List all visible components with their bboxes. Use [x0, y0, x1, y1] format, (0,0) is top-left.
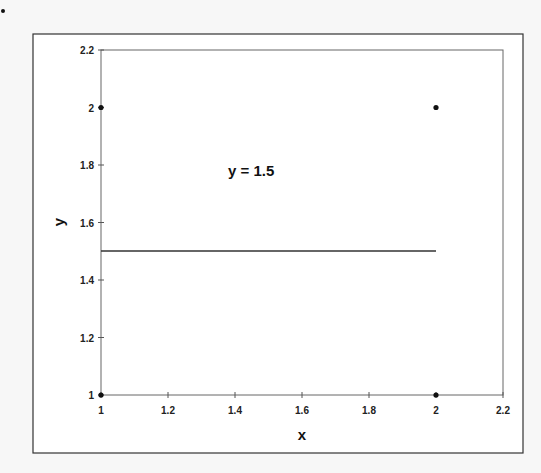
x-axis-title: x: [298, 426, 307, 443]
y-tick-label: 1.6: [80, 218, 94, 229]
data-point: [98, 392, 103, 397]
data-point: [433, 392, 438, 397]
y-tick-label: 1.8: [80, 160, 94, 171]
data-point: [98, 105, 103, 110]
y-tick-label: 2.2: [80, 45, 94, 56]
x-tick-label: 2: [433, 405, 439, 416]
x-tick-label: 1.2: [161, 405, 175, 416]
x-tick-label: 1.8: [362, 405, 376, 416]
y-tick-label: 1: [88, 390, 94, 401]
y-axis-title: y: [50, 217, 67, 226]
y-tick-label: 1.2: [80, 333, 94, 344]
x-tick-label: 1.6: [295, 405, 309, 416]
x-tick-label: 2.2: [496, 405, 510, 416]
x-tick-label: 1: [98, 405, 104, 416]
plot-area: [101, 50, 503, 395]
annotation-label: y = 1.5: [228, 162, 274, 179]
x-tick-label: 1.4: [228, 405, 242, 416]
chart: 1 1.2 1.4 1.6 1.8 2 2.2 1 1.2 1.4 1.6 1.…: [0, 0, 541, 473]
y-tick-label: 2: [88, 103, 94, 114]
data-point: [433, 105, 438, 110]
y-tick-label: 1.4: [80, 275, 94, 286]
